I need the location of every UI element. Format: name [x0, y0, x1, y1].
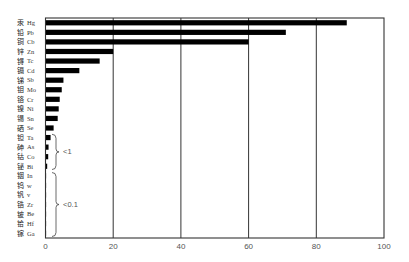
gridlines [113, 18, 316, 238]
label-cn-Cd: 镉 [17, 66, 24, 75]
label-cn-Se: 硒 [17, 125, 24, 133]
label-symbol-w: w [27, 182, 32, 189]
label-symbol-Ni: Ni [27, 105, 34, 112]
label-symbol-Zr: Zr [27, 201, 34, 208]
label-symbol-Sn: Sn [27, 115, 35, 122]
label-cn-Zr: 锆 [17, 200, 24, 209]
bar-Ni [46, 106, 59, 111]
label-symbol-Se: Se [27, 124, 34, 131]
x-axis-tick-labels: 020406080100 [43, 242, 391, 251]
label-symbol-Hg: Hg [27, 19, 36, 26]
annotation-<1: <1 [63, 147, 72, 156]
label-cn-Hg: 汞 [17, 19, 24, 27]
label-cn-Zn: 锌 [17, 47, 24, 56]
label-cn-Cr: 铬 [17, 95, 24, 104]
bar-Cb [46, 39, 249, 44]
label-symbol-As: As [27, 143, 35, 150]
bar-Pb [46, 30, 286, 35]
label-cn-Ta: 钽 [17, 133, 24, 142]
bar-Hg [46, 20, 347, 25]
bar-Tc [46, 58, 100, 63]
bar-Ta [46, 135, 51, 140]
label-cn-Hf: 铪 [17, 219, 24, 228]
label-symbol-Bi: Bi [27, 163, 33, 170]
label-cn-Co: 钴 [17, 152, 24, 161]
label-cn-Mo: 钼 [17, 85, 24, 94]
label-symbol-Pb: Pb [27, 29, 34, 36]
label-symbol-v: v [27, 191, 31, 198]
x-tick-20: 20 [109, 242, 118, 251]
bars [46, 20, 347, 236]
label-cn-Sn: 锡 [17, 114, 24, 123]
label-symbol-Zn: Zn [27, 48, 35, 55]
label-symbol-Ta: Ta [27, 134, 34, 141]
label-cn-Tc: 锝 [17, 57, 24, 66]
x-tick-60: 60 [244, 242, 253, 251]
label-cn-w: 钨 [17, 181, 24, 190]
x-tick-0: 0 [43, 242, 48, 251]
brace-<1 [52, 134, 59, 169]
label-cn-Pb: 铅 [17, 28, 24, 37]
bar-Mo [46, 87, 62, 92]
label-symbol-Cb: Cb [27, 38, 35, 45]
bar-Sb [46, 78, 64, 83]
label-symbol-Co: Co [27, 153, 35, 160]
label-cn-Ni: 镍 [17, 104, 24, 113]
label-cn-v: 钒 [17, 190, 24, 199]
x-tick-100: 100 [377, 242, 391, 251]
label-cn-Be: 铍 [17, 210, 24, 219]
label-cn-Cb: 铜 [17, 37, 24, 46]
label-symbol-In: In [27, 172, 33, 179]
bar-Sn [46, 116, 58, 121]
brace-annotations: <1<0.1 [52, 134, 78, 236]
bar-Se [46, 125, 54, 130]
bar-Cd [46, 68, 80, 73]
brace-<0.1 [52, 173, 59, 237]
label-symbol-Cr: Cr [27, 96, 34, 103]
label-symbol-Tc: Tc [27, 57, 34, 64]
y-axis-labels: 汞Hg铅Pb铜Cb锌Zn锝Tc镉Cd锑Sb钼Mo铬Cr镍Ni锡Sn硒Se钽Ta砷… [17, 19, 37, 238]
bar-Cr [46, 97, 60, 102]
label-symbol-Be: Be [27, 210, 34, 217]
x-tick-40: 40 [176, 242, 185, 251]
label-cn-As: 砷 [17, 143, 24, 152]
x-tick-80: 80 [312, 242, 321, 251]
label-symbol-Mo: Mo [27, 86, 36, 93]
label-cn-In: 铟 [17, 171, 24, 180]
label-cn-Bi: 铋 [17, 162, 24, 171]
label-cn-Ga: 镓 [17, 229, 24, 238]
bar-chart: 汞Hg铅Pb铜Cb锌Zn锝Tc镉Cd锑Sb钼Mo铬Cr镍Ni锡Sn硒Se钽Ta砷… [0, 0, 409, 262]
annotation-<0.1: <0.1 [63, 200, 78, 209]
label-symbol-Cd: Cd [27, 67, 35, 74]
bar-Zn [46, 49, 114, 54]
label-cn-Sb: 锑 [17, 76, 24, 85]
label-symbol-Hf: Hf [27, 220, 35, 227]
label-symbol-Sb: Sb [27, 76, 34, 83]
label-symbol-Ga: Ga [27, 230, 35, 237]
